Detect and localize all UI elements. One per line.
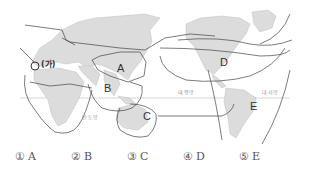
option-1[interactable]: ①A xyxy=(15,150,36,163)
region-label-d: D xyxy=(220,56,228,68)
region-label-a: A xyxy=(117,62,124,74)
option-3-label: C xyxy=(140,150,148,163)
option-1-label: A xyxy=(28,150,36,163)
world-map: (가) A B C D E 인도양 태평양 대서양 xyxy=(0,0,311,145)
land-masses xyxy=(32,10,276,138)
option-4-label: D xyxy=(196,150,205,163)
option-1-number: ① xyxy=(15,150,25,163)
option-2-number: ② xyxy=(71,150,81,163)
world-map-graphic xyxy=(0,0,311,145)
option-5-label: E xyxy=(252,150,260,163)
marker-label: (가) xyxy=(41,58,55,69)
option-4-number: ④ xyxy=(183,150,193,163)
option-5[interactable]: ⑤E xyxy=(239,150,260,163)
option-4[interactable]: ④D xyxy=(183,150,205,163)
option-2-label: B xyxy=(84,150,92,163)
region-label-e: E xyxy=(250,100,257,112)
region-label-b: B xyxy=(104,82,111,94)
option-3-number: ③ xyxy=(127,150,137,163)
option-2[interactable]: ②B xyxy=(71,150,92,163)
option-5-number: ⑤ xyxy=(239,150,249,163)
answer-options: ①A ②B ③C ④D ⑤E xyxy=(0,150,311,180)
option-3[interactable]: ③C xyxy=(127,150,148,163)
ocean-label-indian: 인도양 xyxy=(82,113,99,120)
ocean-label-pacific: 태평양 xyxy=(178,88,195,95)
ocean-label-atlantic: 대서양 xyxy=(262,88,279,95)
region-label-c: C xyxy=(143,110,151,122)
